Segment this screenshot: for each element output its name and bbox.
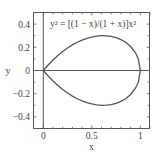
y-axis-label: y — [6, 65, 11, 76]
ytick-label: 0 — [25, 66, 30, 76]
ytick-label: −0.4 — [13, 112, 30, 122]
ytick-label: 0.2 — [18, 43, 30, 53]
xtick-label: 0.5 — [86, 131, 98, 141]
equation-annotation: y² = [(1 − x)/(1 + x)]x² — [50, 19, 136, 30]
xtick-label: 0 — [41, 131, 46, 141]
x-axis-label: x — [89, 141, 94, 152]
chart: y² = [(1 − x)/(1 + x)]x² 0.4 0.2 0 −0.2 … — [0, 0, 154, 155]
ytick-label: 0.4 — [18, 20, 30, 30]
ytick-label: −0.2 — [13, 89, 30, 99]
xtick-label: 1 — [138, 131, 143, 141]
